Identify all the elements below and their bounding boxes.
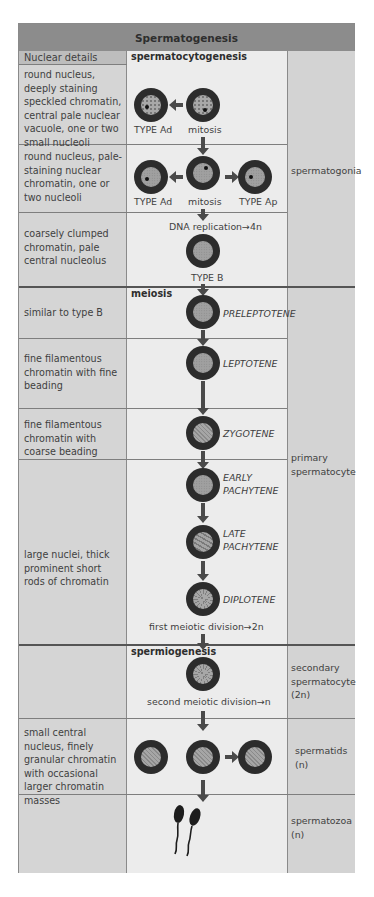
nuclear-detail-pachytene: large nuclei, thick prominent short rods… <box>24 548 124 589</box>
nuclear-detail-zygotene: fine filamentous chromatin with coarse b… <box>24 418 124 459</box>
cell-preleptotene <box>186 295 220 329</box>
divider <box>19 338 287 339</box>
nuclear-detail-type-ad-dark: round nucleus, deeply staining speckled … <box>24 68 124 149</box>
cell-type-spermatozoa: spermatozoa (n) <box>291 814 355 841</box>
arrow-left-icon <box>175 175 183 179</box>
arrow-down-icon <box>201 561 205 575</box>
arrow-right-icon <box>225 175 233 179</box>
arrow-down-icon <box>201 381 205 409</box>
label-type-ap: TYPE Ap <box>239 196 277 207</box>
cell-spermatid-2 <box>186 740 220 774</box>
stage-early-pachytene: EARLY PACHYTENE <box>223 471 273 497</box>
cell-spermatid-3 <box>238 740 272 774</box>
nuclear-detail-leptotene: fine filamentous chromatin with fine bea… <box>24 352 124 393</box>
divider <box>19 459 287 460</box>
label-second-meiotic-division: second meiotic division→n <box>147 696 271 707</box>
cell-type-primary-spermatocyte: primary spermatocyte <box>291 451 355 478</box>
cell-type-ap <box>238 160 272 194</box>
cell-type-ad-pale <box>134 160 168 194</box>
spermatozoa-icon <box>169 802 229 862</box>
arrow-down-icon <box>201 503 205 517</box>
spermatogenesis-table: Spermatogenesis Nuclear details spermato… <box>18 23 355 873</box>
nuclear-detail-spermatids: small central nucleus, finely granular c… <box>24 726 124 807</box>
nuclear-detail-preleptotene: similar to type B <box>24 306 124 320</box>
arrow-down-icon <box>201 137 205 149</box>
arrow-down-icon <box>201 330 205 340</box>
nuclear-detail-type-b: coarsely clumped chromatin, pale central… <box>24 227 124 268</box>
section-spermatocytogenesis: spermatocytogenesis <box>131 51 247 62</box>
cell-type-ad-dark <box>134 88 168 122</box>
section-meiosis: meiosis <box>131 288 172 299</box>
divider <box>19 718 355 719</box>
stage-leptotene: LEPTOTENE <box>223 357 278 370</box>
divider <box>19 64 127 65</box>
cell-spermatid-1 <box>134 740 168 774</box>
arrow-down-icon <box>201 451 205 463</box>
arrow-down-icon <box>201 209 205 215</box>
stage-late-pachytene: LATE PACHYTENE <box>223 527 273 553</box>
label-type-b: TYPE B <box>191 272 223 283</box>
table-title: Spermatogenesis <box>19 24 354 52</box>
arrow-down-icon <box>201 634 205 644</box>
divider <box>19 212 287 213</box>
cell-late-pachytene <box>186 525 220 559</box>
cell-type-secondary-spermatocyte: secondary spermatocyte (2n) <box>291 661 355 702</box>
cell-zygotene <box>186 416 220 450</box>
label-type-ad: TYPE Ad <box>134 124 172 135</box>
stage-preleptotene: PRELEPTOTENE <box>223 307 296 320</box>
divider <box>19 408 287 409</box>
label-dna-replication: DNA replication→4n <box>169 221 262 232</box>
cell-type-spermatogonia: spermatogonia <box>291 164 355 178</box>
cell-secondary-spermatocyte <box>186 657 220 691</box>
divider <box>19 286 355 288</box>
cell-type-spermatids: spermatids (n) <box>295 744 359 771</box>
arrow-down-icon <box>201 284 205 290</box>
nuclear-detail-type-ad-pale: round nucleus, pale-staining nuclear chr… <box>24 150 124 204</box>
nuclear-details-header: Nuclear details <box>24 51 124 65</box>
label-type-ad: TYPE Ad <box>134 196 172 207</box>
label-first-meiotic-division: first meiotic division→2n <box>149 621 264 632</box>
cell-mitosis-2 <box>186 156 220 190</box>
cell-leptotene <box>186 346 220 380</box>
cell-diplotene <box>186 582 220 616</box>
arrow-down-icon <box>201 711 205 725</box>
arrow-down-icon <box>201 780 205 796</box>
stage-diplotene: DIPLOTENE <box>223 593 276 606</box>
cell-early-pachytene <box>186 468 220 502</box>
cell-mitosis-1 <box>186 88 220 122</box>
arrow-left-icon <box>175 103 183 107</box>
label-mitosis: mitosis <box>188 196 222 207</box>
arrow-right-icon <box>225 755 233 759</box>
stage-zygotene: ZYGOTENE <box>223 427 274 440</box>
label-mitosis: mitosis <box>188 124 222 135</box>
cell-type-b <box>186 234 220 268</box>
